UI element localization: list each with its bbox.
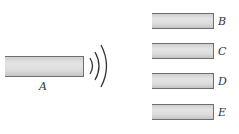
bar-e [152,104,214,120]
label-e: E [218,107,226,118]
bar-a [5,56,84,77]
bar-b [152,13,214,29]
bar-c [152,43,214,59]
label-a: A [39,81,47,92]
bar-d [152,73,214,89]
label-d: D [218,76,227,87]
label-b: B [218,16,226,27]
label-c: C [218,46,226,57]
sound-waves-icon [84,40,116,92]
